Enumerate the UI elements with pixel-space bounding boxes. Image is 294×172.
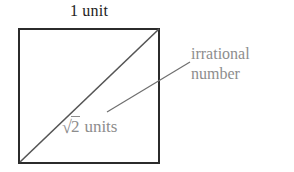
radical-expression: √2	[62, 115, 80, 138]
unit-square	[18, 28, 160, 164]
diagonal-length-label: √2units	[62, 115, 117, 138]
callout-line-2: number	[191, 64, 250, 84]
callout-line-1: irrational	[191, 44, 250, 64]
units-word: units	[84, 117, 117, 136]
diagram-canvas: 1 unit √2units irrational number	[0, 0, 294, 172]
top-side-length-label: 1 unit	[0, 1, 178, 21]
radicand: 2	[71, 116, 81, 136]
irrational-number-callout: irrational number	[191, 44, 250, 84]
